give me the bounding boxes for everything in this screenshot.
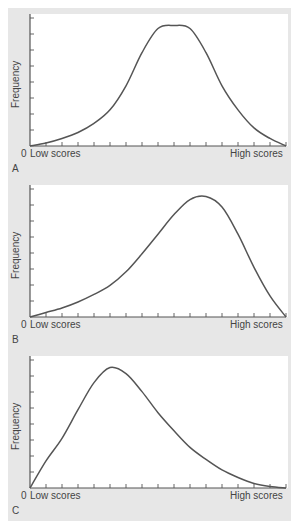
x-low-label-b: Low scores xyxy=(30,319,81,330)
panel-label-a: A xyxy=(12,163,19,174)
x-low-label-a: Low scores xyxy=(30,148,81,159)
x-high-label-a: High scores xyxy=(230,148,283,159)
x-high-label-c: High scores xyxy=(230,490,283,501)
panel-label-b: B xyxy=(12,334,19,345)
y-axis-label-c: Frequency xyxy=(10,403,21,450)
panel-c: Frequency 0 Low scores High scores C xyxy=(8,350,291,521)
figure-frame: Frequency 0 Low scores High scores A Fre… xyxy=(8,8,291,521)
y-axis-label-b: Frequency xyxy=(10,232,21,279)
panel-label-c: C xyxy=(12,505,19,516)
origin-label-b: 0 xyxy=(21,319,27,330)
y-axis-label-a: Frequency xyxy=(10,61,21,108)
panel-a: Frequency 0 Low scores High scores A xyxy=(8,8,291,179)
x-low-label-c: Low scores xyxy=(30,490,81,501)
x-high-label-b: High scores xyxy=(230,319,283,330)
origin-label-a: 0 xyxy=(21,148,27,159)
origin-label-c: 0 xyxy=(21,490,27,501)
panel-b: Frequency 0 Low scores High scores B xyxy=(8,179,291,350)
